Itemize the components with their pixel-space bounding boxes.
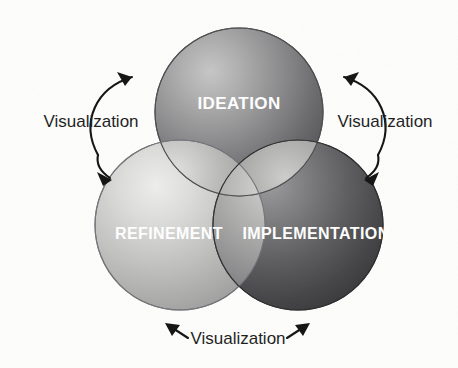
venn-diagram-svg: IDEATION REFINEMENT IMPLEMENTATION Visua… xyxy=(0,0,458,368)
paper-grain-overlay xyxy=(0,0,458,368)
venn-diagram-canvas: IDEATION REFINEMENT IMPLEMENTATION Visua… xyxy=(0,0,458,368)
